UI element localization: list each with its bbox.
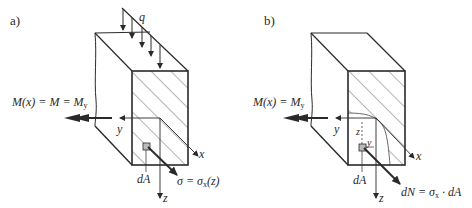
panel-b-element-label: dA [353,174,366,186]
panel-b-moment-arrow [283,114,328,122]
panel-b-axis-x-label: x [416,150,421,162]
panel-a-moment-label: M(x) = M = My [12,96,88,110]
panel-a-element-label: dA [137,173,150,185]
panel-b-local-z-label: z [356,127,360,137]
panel-b-cut-edge [311,33,312,126]
panel-a-axis-x-label: x [199,148,204,160]
panel-a-moment-arrow [64,114,112,122]
panel-b-moment-label: M(x) = My [253,96,304,110]
panel-b-label: b) [264,14,275,27]
panel-a-load-label: q [139,11,145,23]
panel-a-stress-label: σ = σx(z) [177,175,220,189]
panel-b-local-y-label: y [367,138,371,148]
panel-a-axis-y-label: y [117,123,122,135]
panel-b-axis-z-label: z [379,192,384,204]
panel-b-beam [311,33,405,165]
panel-a-cut-edge [95,33,96,126]
panel-a-label: a) [10,14,20,27]
panel-a-axis-z-label: z [163,192,168,204]
panel-b-axis-y-label: y [334,123,339,135]
panel-b-force-label: dN = σx · dA [401,186,461,200]
